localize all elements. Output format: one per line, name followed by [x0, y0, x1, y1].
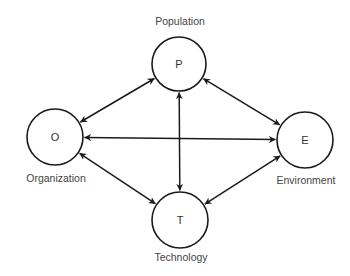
node-organization: O Organization [26, 109, 86, 184]
arrow-organization-technology [80, 153, 156, 203]
arrow-technology-environment [205, 156, 280, 204]
population-letter: P [175, 58, 182, 70]
arrow-population-technology [179, 93, 180, 191]
node-environment: E Environment [277, 112, 336, 186]
node-technology: T Technology [152, 192, 208, 263]
organization-letter: O [51, 131, 60, 143]
node-population: P Population [152, 15, 206, 91]
arrow-population-environment [203, 79, 279, 125]
technology-letter: T [177, 214, 184, 226]
environment-letter: E [301, 134, 308, 146]
technology-label: Technology [154, 251, 208, 263]
environment-label: Environment [277, 174, 336, 186]
organization-label: Organization [26, 172, 86, 184]
population-label: Population [155, 15, 205, 27]
edges-group [80, 79, 281, 205]
arrow-organization-population [80, 79, 154, 123]
pote-diagram: P Population O Organization E Environmen… [0, 0, 350, 276]
